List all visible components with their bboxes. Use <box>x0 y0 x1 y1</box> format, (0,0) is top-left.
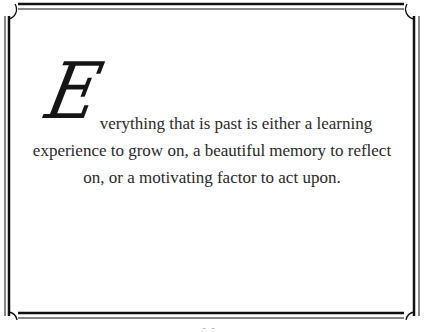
page-mark: - - <box>203 325 216 332</box>
quote-line-1: E verything that is past is either a lea… <box>20 110 404 137</box>
quote-line-2: experience to grow on, a beautiful memor… <box>20 137 404 164</box>
quote-line-3: on, or a motivating factor to act upon. <box>20 164 404 191</box>
quote-line-1-text: verything that is past is either a learn… <box>52 114 372 133</box>
quote-text: E verything that is past is either a lea… <box>20 110 404 191</box>
